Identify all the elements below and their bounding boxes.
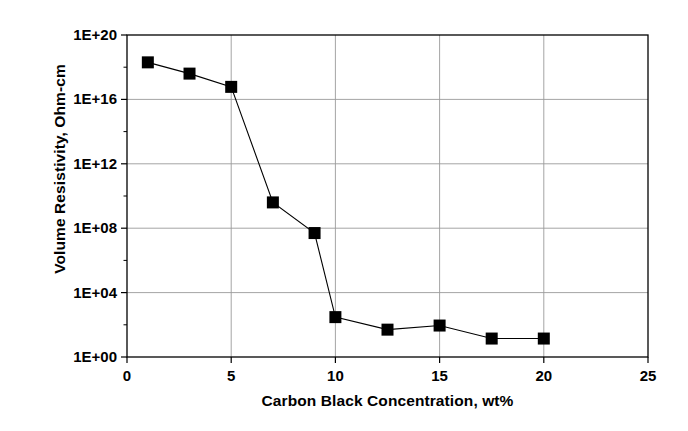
x-tick-label: 15 — [410, 367, 470, 384]
chart-figure: 1E+001E+041E+081E+121E+161E+200510152025… — [0, 0, 688, 431]
x-tick-label: 20 — [514, 367, 574, 384]
x-tick-label: 10 — [305, 367, 365, 384]
x-tick-label: 0 — [97, 367, 157, 384]
y-tick-label: 1E+00 — [0, 348, 117, 365]
y-axis-title: Volume Resistivity, Ohm-cm — [51, 19, 69, 319]
x-tick-label: 25 — [618, 367, 678, 384]
tick-label-layer: 1E+001E+041E+081E+121E+161E+200510152025 — [0, 0, 688, 431]
x-tick-label: 5 — [201, 367, 261, 384]
x-axis-title: Carbon Black Concentration, wt% — [127, 392, 648, 410]
